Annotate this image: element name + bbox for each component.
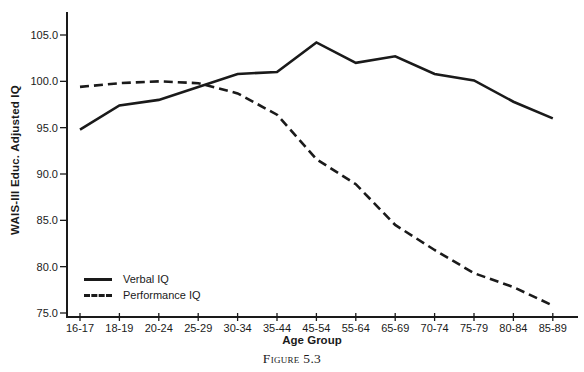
x-axis-title: Age Group xyxy=(247,334,377,346)
x-tick-label: 65-69 xyxy=(381,322,409,334)
x-tick-label: 85-89 xyxy=(539,322,567,334)
legend: Verbal IQ Performance IQ xyxy=(84,271,201,303)
x-tick-label: 45-54 xyxy=(302,322,330,334)
x-tick-label: 30-34 xyxy=(224,322,252,334)
legend-item-verbal-iq: Verbal IQ xyxy=(84,271,201,287)
y-tick-label: 80.0 xyxy=(37,261,58,273)
y-tick-label: 105.0 xyxy=(30,29,58,41)
legend-label-performance-iq: Performance IQ xyxy=(123,289,201,301)
x-tick-label: 70-74 xyxy=(421,322,449,334)
x-tick-label: 75-79 xyxy=(460,322,488,334)
y-axis-title: WAIS-III Educ. Adjusted IQ xyxy=(9,75,25,245)
y-tick-label: 90.0 xyxy=(37,168,58,180)
solid-line-sample-icon xyxy=(84,278,112,281)
x-tick-label: 16-17 xyxy=(66,322,94,334)
legend-label-verbal-iq: Verbal IQ xyxy=(123,273,169,285)
x-tick-label: 80-84 xyxy=(499,322,527,334)
y-tick-label: 75.0 xyxy=(37,307,58,319)
x-tick-label: 20-24 xyxy=(145,322,173,334)
verbal-iq-line xyxy=(80,42,553,129)
x-tick-label: 18-19 xyxy=(105,322,133,334)
figure-page: 75.080.085.090.095.0100.0105.016-1718-19… xyxy=(0,0,584,372)
y-tick-label: 85.0 xyxy=(37,214,58,226)
x-tick-label: 55-64 xyxy=(342,322,370,334)
x-tick-label: 35-44 xyxy=(263,322,291,334)
figure-caption: Figure 5.3 xyxy=(0,351,584,367)
dashed-line-sample-icon xyxy=(84,294,112,297)
y-tick-label: 100.0 xyxy=(30,75,58,87)
legend-item-performance-iq: Performance IQ xyxy=(84,287,201,303)
y-tick-label: 95.0 xyxy=(37,122,58,134)
chart-svg: 75.080.085.090.095.0100.0105.016-1718-19… xyxy=(0,0,584,372)
x-tick-label: 25-29 xyxy=(184,322,212,334)
